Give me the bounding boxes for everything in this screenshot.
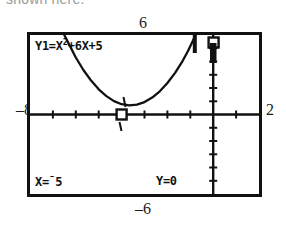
graphing-calculator-screen[interactable]: Y1=X2+6X+5 X=¯5 Y=0 [27,32,262,197]
trace-y-readout: Y=0 [156,175,177,187]
equation-suffix: +6X+5 [68,39,103,53]
trace-x-label: X= [35,175,49,189]
window-ymax-label: 6 [0,14,286,32]
equation-readout: Y1=X2+6X+5 [35,40,102,52]
trace-x-readout: X=¯5 [35,175,62,188]
caption-text-fragment: shown here. [6,0,146,5]
graph-plot-area[interactable] [30,35,259,194]
trace-y-label: Y= [156,174,170,188]
trace-cursor-tick-down [120,122,122,131]
trace-y-value: 0 [170,174,177,188]
trace-cursor-square[interactable] [117,110,127,120]
trace-x-value: 5 [55,175,62,189]
window-xmax-label: 2 [266,101,286,119]
y-axis-top-bar [210,43,217,63]
equation-prefix: Y1=X [35,39,63,53]
graph-svg [30,35,259,194]
window-ymin-label: –6 [0,200,286,218]
